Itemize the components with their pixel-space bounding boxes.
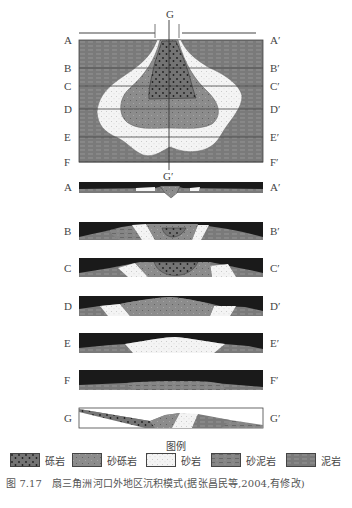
section-f: F F′ bbox=[64, 370, 279, 390]
label-c-prime: C′ bbox=[270, 80, 280, 92]
section-b: B B′ bbox=[64, 222, 280, 240]
plan-view: G G′ A B C D E F A′ B′ C′ D′ E′ F′ bbox=[64, 8, 280, 182]
label-b-prime: B′ bbox=[270, 62, 280, 74]
section-e: E E′ bbox=[64, 333, 279, 353]
legend-item-mudstone: 泥岩 bbox=[286, 452, 341, 468]
label-e: E bbox=[64, 131, 71, 143]
legend-title: 图例 bbox=[0, 438, 352, 453]
label-f-prime: F′ bbox=[270, 156, 279, 168]
section-c-left: C bbox=[64, 262, 71, 274]
label-g-bottom: G′ bbox=[163, 170, 173, 182]
section-c-right: C′ bbox=[270, 262, 280, 274]
section-d: D D′ bbox=[64, 296, 280, 316]
legend-label: 砂泥岩 bbox=[246, 453, 276, 468]
section-c: C C′ bbox=[64, 258, 280, 277]
section-a-left: A bbox=[64, 181, 72, 193]
sedimentary-model-figure: G G′ A B C D E F A′ B′ C′ D′ E′ F′ A A′ … bbox=[0, 0, 352, 440]
legend-item-sandy-mudstone: 砂泥岩 bbox=[211, 452, 276, 468]
section-b-right: B′ bbox=[270, 225, 280, 237]
legend: 砾岩 砂砾岩 砂岩 砂泥岩 泥岩 bbox=[10, 452, 350, 468]
figure-caption: 图 7.17 扇三角洲河口外地区沉积模式(据张昌民等,2004,有修改) bbox=[6, 475, 352, 490]
sandy-conglomerate-swatch-icon bbox=[72, 453, 102, 467]
label-d-prime: D′ bbox=[270, 103, 280, 115]
sandstone-swatch-icon bbox=[146, 453, 176, 467]
section-e-left: E bbox=[64, 337, 71, 349]
legend-label: 砂砾岩 bbox=[107, 453, 137, 468]
section-a-right: A′ bbox=[270, 181, 280, 193]
legend-label: 泥岩 bbox=[321, 453, 341, 468]
label-c: C bbox=[64, 80, 71, 92]
section-f-right: F′ bbox=[270, 374, 279, 386]
section-d-left: D bbox=[64, 300, 72, 312]
label-e-prime: E′ bbox=[270, 131, 279, 143]
legend-item-sandy-conglomerate: 砂砾岩 bbox=[72, 452, 137, 468]
mudstone-swatch-icon bbox=[286, 453, 316, 467]
section-g-right: G′ bbox=[270, 412, 280, 424]
label-f: F bbox=[64, 156, 70, 168]
section-g-left: G bbox=[64, 412, 72, 424]
legend-item-sandstone: 砂岩 bbox=[146, 452, 201, 468]
label-d: D bbox=[64, 103, 72, 115]
label-b: B bbox=[64, 62, 71, 74]
conglomerate-swatch-icon bbox=[10, 453, 40, 467]
label-a-prime: A′ bbox=[270, 34, 280, 46]
section-f-left: F bbox=[64, 374, 70, 386]
sandy-mudstone-swatch-icon bbox=[211, 453, 241, 467]
legend-label: 砾岩 bbox=[45, 453, 65, 468]
section-e-right: E′ bbox=[270, 337, 279, 349]
legend-label: 砂岩 bbox=[181, 453, 201, 468]
legend-item-conglomerate: 砾岩 bbox=[10, 452, 65, 468]
section-g: G G′ bbox=[64, 408, 280, 428]
label-g-top: G bbox=[166, 8, 174, 20]
section-b-left: B bbox=[64, 225, 71, 237]
section-d-right: D′ bbox=[270, 300, 280, 312]
section-a: A A′ bbox=[64, 181, 280, 198]
label-a: A bbox=[64, 34, 72, 46]
